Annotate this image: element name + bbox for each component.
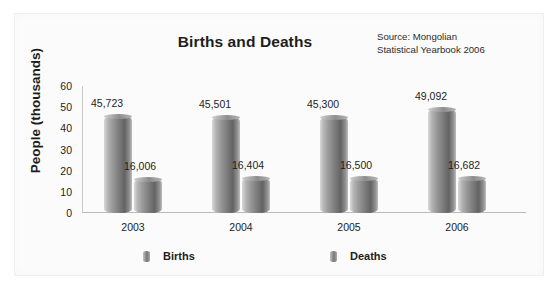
y-axis-tick-label: 50 bbox=[50, 101, 72, 113]
bar-top-cap bbox=[212, 115, 240, 120]
source-note: Source: Mongolian Statistical Yearbook 2… bbox=[377, 31, 485, 56]
chart-screenshot: Births and Deaths Source: Mongolian Stat… bbox=[0, 0, 559, 287]
bar-top-cap bbox=[104, 114, 132, 119]
legend-swatch-icon bbox=[330, 251, 337, 262]
bar-deaths-2005 bbox=[350, 178, 378, 213]
bar-deaths-2006 bbox=[458, 178, 486, 213]
value-label-deaths-2004: 16,404 bbox=[232, 159, 264, 171]
legend-label: Deaths bbox=[350, 250, 387, 262]
legend-swatch-icon bbox=[143, 251, 150, 262]
y-axis-tick-label: 10 bbox=[50, 186, 72, 198]
legend-item-births[interactable]: Births bbox=[143, 250, 195, 262]
legend-item-deaths[interactable]: Deaths bbox=[330, 250, 387, 262]
bar-group: 49,09216,682 bbox=[428, 86, 486, 213]
bar-group: 45,72316,006 bbox=[104, 86, 162, 213]
plot-area: 45,72316,00645,50116,40445,30016,50049,0… bbox=[82, 86, 526, 213]
y-axis-tick-label: 40 bbox=[50, 122, 72, 134]
y-axis-tick-label: 0 bbox=[50, 207, 72, 219]
x-axis-tick-label-2005: 2005 bbox=[319, 221, 379, 233]
value-label-births-2003: 45,723 bbox=[91, 97, 123, 109]
bar-top-cap bbox=[350, 176, 378, 181]
value-label-births-2005: 45,300 bbox=[307, 98, 339, 110]
source-note-line-1: Source: Mongolian bbox=[377, 31, 485, 44]
bar-deaths-2004 bbox=[242, 178, 270, 213]
bar-top-cap bbox=[320, 115, 348, 120]
x-axis-tick-label-2004: 2004 bbox=[211, 221, 271, 233]
y-axis-tick-label: 20 bbox=[50, 165, 72, 177]
page-title: Births and Deaths bbox=[140, 33, 350, 51]
bar-group: 45,30016,500 bbox=[320, 86, 378, 213]
value-label-births-2004: 45,501 bbox=[199, 98, 231, 110]
x-axis-tick-label-2006: 2006 bbox=[427, 221, 487, 233]
y-axis-tick-label: 30 bbox=[50, 144, 72, 156]
value-label-births-2006: 49,092 bbox=[415, 90, 447, 102]
value-label-deaths-2005: 16,500 bbox=[340, 159, 372, 171]
y-axis-title: People (thousands) bbox=[28, 47, 43, 175]
y-axis-tick-label: 60 bbox=[50, 80, 72, 92]
legend-label: Births bbox=[163, 250, 195, 262]
bar-group: 45,50116,404 bbox=[212, 86, 270, 213]
bar-deaths-2003 bbox=[134, 179, 162, 213]
value-label-deaths-2006: 16,682 bbox=[448, 159, 480, 171]
bar-top-cap bbox=[428, 107, 456, 112]
source-note-line-2: Statistical Yearbook 2006 bbox=[377, 44, 485, 57]
x-axis-tick-label-2003: 2003 bbox=[103, 221, 163, 233]
bar-top-cap bbox=[242, 176, 270, 181]
value-label-deaths-2003: 16,006 bbox=[124, 160, 156, 172]
bar-top-cap bbox=[458, 176, 486, 181]
bar-top-cap bbox=[134, 177, 162, 182]
